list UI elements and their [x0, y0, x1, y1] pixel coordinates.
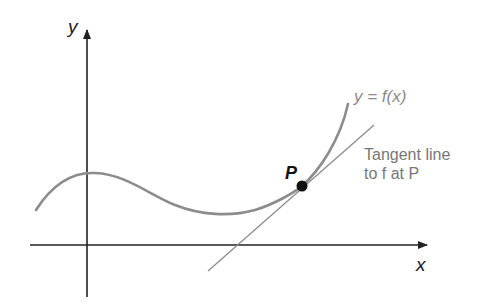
point-p — [297, 181, 308, 192]
y-axis-label: y — [68, 17, 78, 36]
tangent-label-line1: Tangent line — [364, 145, 450, 164]
point-label: P — [285, 164, 297, 182]
tangent-label-line2: to f at P — [364, 164, 419, 183]
tangent-line — [208, 125, 374, 271]
x-axis-label: x — [416, 255, 426, 274]
curve-label: y = f(x) — [354, 88, 406, 105]
function-curve — [36, 104, 348, 214]
